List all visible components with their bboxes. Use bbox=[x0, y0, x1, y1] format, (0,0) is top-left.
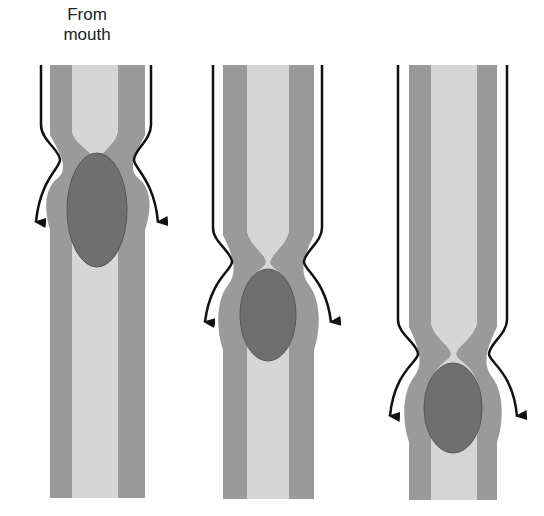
food-bolus bbox=[67, 153, 127, 267]
esophagus-stage-3 bbox=[390, 65, 517, 500]
food-bolus bbox=[424, 363, 482, 453]
esophagus-stage-1 bbox=[36, 65, 158, 498]
peristalsis-diagram bbox=[0, 0, 544, 516]
food-bolus bbox=[240, 269, 296, 361]
lumen bbox=[72, 65, 118, 498]
esophagus-stage-2 bbox=[205, 65, 331, 499]
